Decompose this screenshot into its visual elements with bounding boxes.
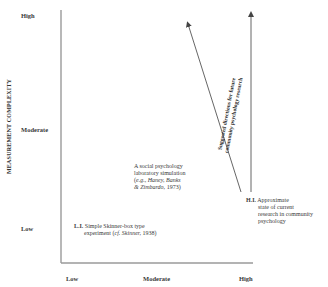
- hi-line2: state of current: [246, 204, 328, 211]
- hi-line3: research in community: [246, 211, 328, 218]
- social-line1: A social psychology: [134, 163, 224, 170]
- li-line2: experiment (: [84, 230, 115, 236]
- li-line1: Simple Skinner-box type: [85, 223, 145, 229]
- hi-prefix: H.I.: [246, 197, 256, 203]
- hi-line4: psychology: [246, 218, 328, 225]
- social-citation-cont: & Zimbardo,: [134, 184, 165, 190]
- point-label-li: L.I. Simple Skinner-box type experiment …: [74, 223, 214, 237]
- hi-line1: Approximate: [257, 197, 289, 203]
- y-axis-label: MEASUREMENT COMPLEXITY: [6, 84, 12, 174]
- x-tick-moderate: Moderate: [143, 275, 170, 282]
- y-tick-low: Low: [21, 225, 33, 232]
- li-year: 1938): [141, 230, 157, 236]
- x-tick-high: High: [239, 275, 253, 282]
- x-tick-low: Low: [66, 275, 78, 282]
- social-line2: laboratory simulation: [134, 170, 224, 177]
- y-tick-moderate: Moderate: [21, 126, 48, 133]
- li-prefix: L.I.: [74, 223, 83, 229]
- point-label-hi: H.I. Approximate state of current resear…: [246, 197, 328, 225]
- y-tick-high: High: [21, 12, 35, 19]
- point-label-social-simulation: A social psychology laboratory simulatio…: [134, 163, 224, 191]
- li-citation: cf. Skinner,: [115, 230, 142, 236]
- diagram-canvas: [0, 0, 328, 287]
- social-citation: e.g., Haney, Banks: [136, 177, 181, 183]
- social-year: 1973): [165, 184, 181, 190]
